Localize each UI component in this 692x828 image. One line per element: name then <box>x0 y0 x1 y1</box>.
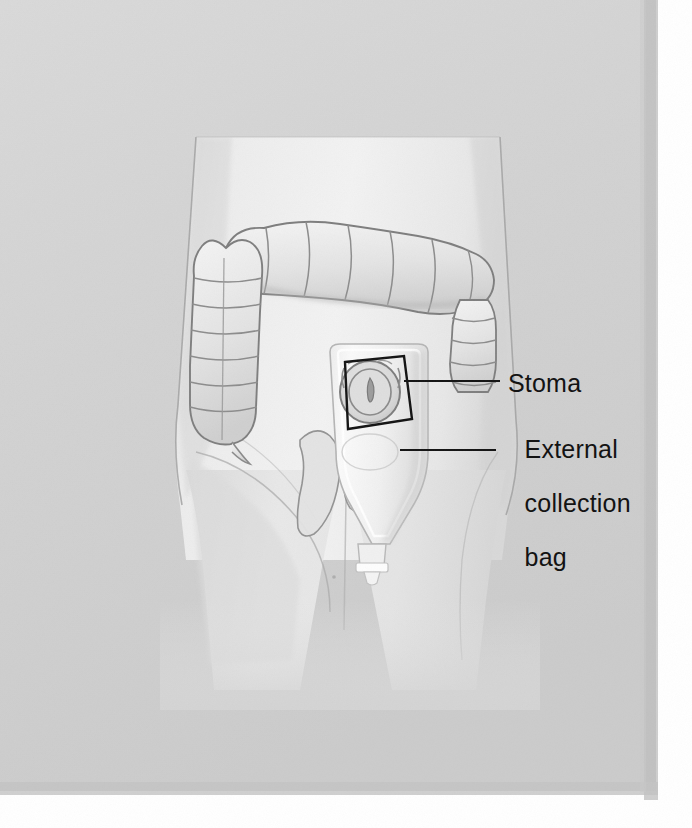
drain-clamp <box>356 563 388 572</box>
stoma-label: Stoma <box>508 370 581 397</box>
external-collection-bag-label: External collection bag <box>496 409 631 598</box>
stoma-opening <box>340 360 400 423</box>
ascending-colon <box>190 240 262 464</box>
bag-label-line-2: collection <box>525 489 631 517</box>
bag-label-line-1: External <box>525 435 618 463</box>
illustration-canvas: Stoma External collection bag <box>0 0 692 828</box>
descending-colon <box>450 300 496 392</box>
bag-label-line-3: bag <box>525 543 567 571</box>
